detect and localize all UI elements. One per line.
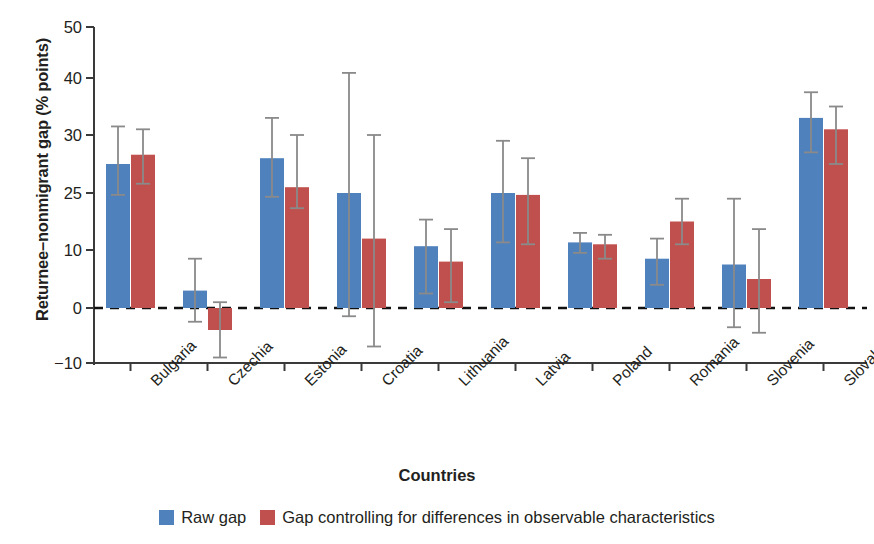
plot-area <box>0 0 874 544</box>
legend-entry-0[interactable]: Raw gap <box>159 508 246 527</box>
legend-swatch-icon <box>159 510 174 525</box>
legend-swatch-icon <box>260 510 275 525</box>
x-axis-title: Countries <box>0 466 874 485</box>
error-bar-czechia-raw <box>188 259 202 322</box>
legend-label: Raw gap <box>181 508 246 527</box>
bar-chart-figure: Returnee–nonmigrant gap (% points) 50403… <box>0 0 874 544</box>
legend-entry-1[interactable]: Gap controlling for differences in obser… <box>260 508 715 527</box>
legend-label: Gap controlling for differences in obser… <box>282 508 715 527</box>
chart-legend: Raw gapGap controlling for differences i… <box>0 508 874 527</box>
